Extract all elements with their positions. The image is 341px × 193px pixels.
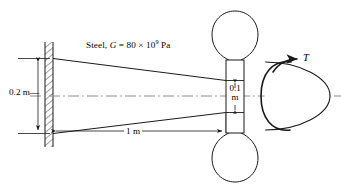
power-base: 10 xyxy=(144,40,156,50)
torque-label: T xyxy=(303,53,309,64)
shaft-torsion-svg xyxy=(0,0,341,193)
pressure-unit: Pa xyxy=(159,40,171,50)
material-name: Steel, xyxy=(86,40,110,50)
left-diameter-label: 0.2 m— xyxy=(9,88,39,97)
nose-cone xyxy=(265,62,330,130)
fixed-wall-support xyxy=(45,42,53,147)
material-property-label: Steel, G = 80 × 109 Pa xyxy=(86,41,170,50)
figure-container: Steel, G = 80 × 109 Pa 0.2 m— 0.1 m 1 m … xyxy=(0,0,341,193)
right-diameter-label: 0.1 m xyxy=(226,84,244,102)
length-label: 1 m xyxy=(124,127,142,136)
shear-modulus-value: = 80 xyxy=(116,40,138,50)
right-diameter-unit: m xyxy=(226,93,244,102)
